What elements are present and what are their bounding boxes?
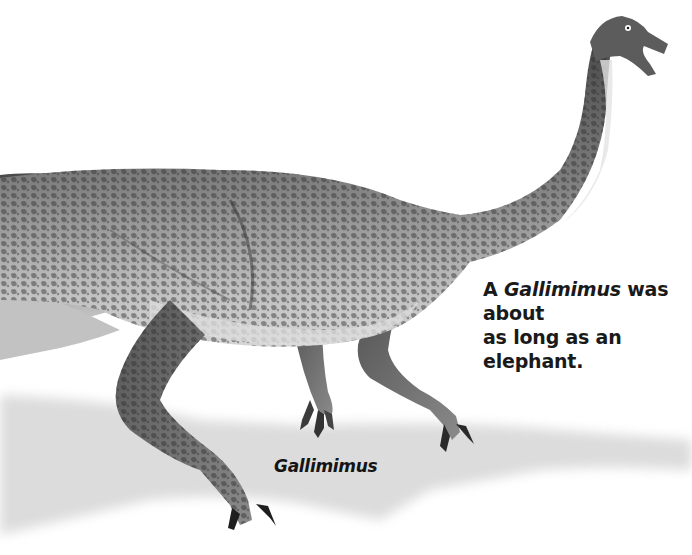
caption-line2: as long as an elephant.: [483, 326, 622, 372]
species-label: Gallimimus: [274, 456, 377, 476]
caption-prefix: A: [483, 278, 504, 300]
caption-text: A Gallimimus was about as long as an ele…: [483, 277, 692, 373]
caption-species-name: Gallimimus: [504, 278, 621, 300]
